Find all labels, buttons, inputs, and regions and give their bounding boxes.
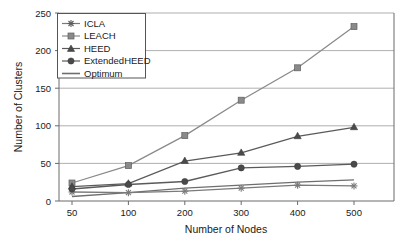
y-tick-label: 50: [40, 158, 51, 169]
x-tick-label: 400: [290, 207, 306, 218]
legend-label-optimum: Optimum: [84, 68, 123, 79]
x-axis-ticks: [72, 201, 354, 205]
x-tick-label: 50: [67, 207, 78, 218]
x-tick-label: 500: [346, 207, 362, 218]
y-axis-title: Number of Clusters: [12, 62, 24, 152]
y-tick-label: 250: [35, 8, 51, 19]
circle-icon: [68, 58, 74, 64]
y-axis-tick-labels: 250 200 150 100 50 0: [35, 8, 51, 207]
x-tick-label: 100: [120, 207, 136, 218]
x-tick-label: 200: [177, 207, 193, 218]
y-tick-label: 150: [35, 83, 51, 94]
x-tick-label: 300: [233, 207, 249, 218]
y-tick-label: 100: [35, 120, 51, 131]
chart-legend: ICLA LEACH HEED ExtendedHEED: [58, 14, 151, 79]
y-tick-label: 200: [35, 45, 51, 56]
square-icon: [68, 33, 74, 39]
legend-label-icla: ICLA: [84, 18, 106, 29]
asterisk-icon: [68, 20, 75, 27]
x-axis-tick-labels: 50 100 200 300 400 500: [67, 207, 362, 218]
chart-container: 250 200 150 100 50 0 50 100 200 300 400 …: [0, 0, 411, 238]
x-axis-title: Number of Nodes: [185, 223, 267, 235]
legend-label-extendedheed: ExtendedHEED: [84, 55, 151, 66]
legend-label-heed: HEED: [84, 43, 111, 54]
y-tick-label: 0: [46, 196, 51, 207]
line-chart: 250 200 150 100 50 0 50 100 200 300 400 …: [0, 0, 411, 238]
legend-label-leach: LEACH: [84, 30, 116, 41]
